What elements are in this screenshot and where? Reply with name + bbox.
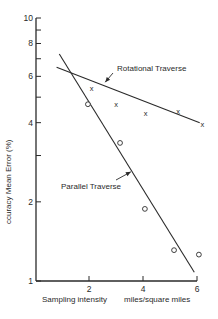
circle-marker [172, 248, 177, 253]
accuracy-chart: 1246810246 xxxxx Rotational Traverse Par… [0, 0, 218, 319]
y-tick-label: 6 [28, 71, 33, 81]
x-tick-label: 6 [195, 284, 200, 294]
x-axis-units: miles/square miles [124, 295, 190, 304]
y-tick-label: 8 [28, 38, 33, 48]
y-axis-label: ccuracy Mean Error (%) [4, 139, 13, 224]
rotational-traverse-label: Rotational Traverse [117, 64, 187, 73]
circle-marker [142, 206, 147, 211]
parallel-traverse-fit-line [59, 54, 194, 272]
y-tick-label: 4 [28, 118, 33, 128]
x-axis-label: Sampling intensity [42, 295, 107, 304]
x-marker: x [201, 120, 205, 129]
x-marker: x [176, 107, 180, 116]
y-tick-label: 2 [28, 197, 33, 207]
annotations: Rotational Traverse Parallel Traverse Sa… [4, 64, 190, 304]
x-marker: x [114, 100, 118, 109]
y-tick-label: 1 [28, 276, 33, 286]
parallel-traverse-label: Parallel Traverse [61, 182, 122, 191]
x-tick-label: 4 [141, 284, 146, 294]
circle-marker [196, 252, 201, 257]
y-tick-label: 10 [24, 13, 34, 23]
fit-lines [57, 54, 200, 272]
circle-marker [86, 102, 91, 107]
circle-marker [118, 141, 123, 146]
x-marker: x [90, 84, 94, 93]
x-tick-label: 2 [87, 284, 92, 294]
data-points: xxxxx [86, 84, 205, 257]
x-marker: x [144, 109, 148, 118]
